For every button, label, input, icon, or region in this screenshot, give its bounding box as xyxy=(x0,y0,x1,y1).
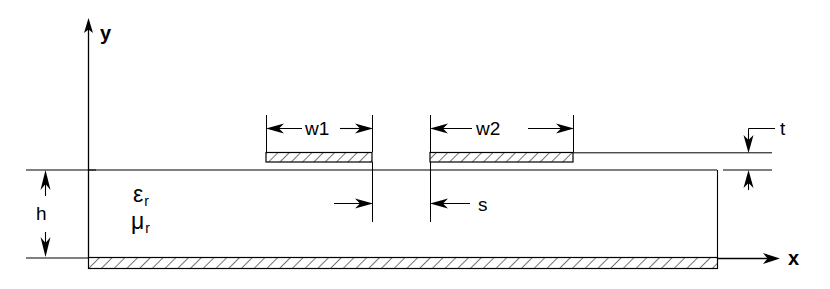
dimension-label-s: s xyxy=(478,195,488,214)
thickness-reference-line xyxy=(573,153,772,170)
ground-plane xyxy=(89,258,718,269)
x-axis-label: x xyxy=(788,248,799,268)
permittivity-label: εr xyxy=(133,183,148,206)
permittivity-symbol: ε xyxy=(133,181,143,207)
cross-section-diagram xyxy=(0,0,830,289)
substrate-body xyxy=(89,170,718,258)
dimension-s xyxy=(334,162,470,222)
permittivity-subscript: r xyxy=(144,193,149,209)
dimension-label-t: t xyxy=(780,119,785,138)
y-axis xyxy=(84,18,93,258)
dimension-t xyxy=(744,129,776,191)
conductor-strip-w1 xyxy=(266,153,372,163)
dimension-label-h: h xyxy=(36,204,47,223)
permeability-symbol: μ xyxy=(131,208,144,234)
figure-canvas: y x w1 w2 s t h εr μr xyxy=(0,0,830,289)
dimension-label-w1: w1 xyxy=(305,119,329,138)
permeability-subscript: r xyxy=(145,220,150,236)
dimension-w2 xyxy=(430,115,574,152)
dimension-label-w2: w2 xyxy=(476,119,500,138)
conductor-strip-w2 xyxy=(430,153,573,163)
y-axis-label: y xyxy=(100,23,111,43)
permeability-label: μr xyxy=(131,210,149,233)
